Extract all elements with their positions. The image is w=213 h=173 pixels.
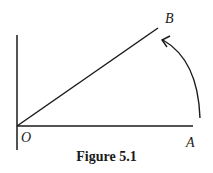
label-a: A xyxy=(186,136,195,150)
figure-caption: Figure 5.1 xyxy=(0,150,213,164)
ray-ob xyxy=(17,28,158,126)
label-b: B xyxy=(165,12,174,26)
rotation-arrow-arc xyxy=(163,40,200,118)
figure-5-1: B O A Figure 5.1 xyxy=(0,0,213,173)
label-o: O xyxy=(21,131,31,145)
angle-diagram xyxy=(0,0,213,173)
